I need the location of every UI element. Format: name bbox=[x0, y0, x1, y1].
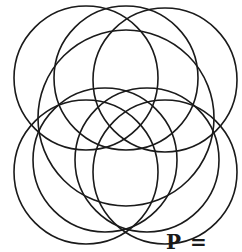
circle-4 bbox=[38, 30, 214, 206]
circle-3 bbox=[93, 8, 237, 152]
caption-label: P = bbox=[166, 230, 208, 252]
overlapping-circles-diagram bbox=[0, 0, 242, 252]
circle-1 bbox=[14, 6, 158, 150]
circle-2 bbox=[54, 6, 198, 150]
